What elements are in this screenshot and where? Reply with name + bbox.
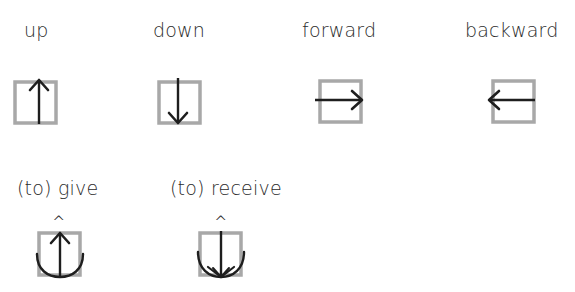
box-arrow-down-icon — [157, 77, 203, 127]
box-arrow-up-icon — [13, 78, 59, 126]
label-to-receive: (to) receive — [170, 177, 282, 199]
label-to-give: (to) give — [17, 177, 98, 199]
box-arrow-left-icon — [487, 79, 539, 125]
box-arrow-right-icon — [314, 79, 366, 125]
box-arrow-down-with-curve-icon — [195, 230, 247, 280]
label-forward: forward — [302, 19, 376, 41]
label-down: down — [153, 19, 205, 41]
label-backward: backward — [465, 19, 558, 41]
label-up: up — [24, 19, 49, 41]
box-arrow-up-with-curve-icon — [34, 230, 86, 280]
